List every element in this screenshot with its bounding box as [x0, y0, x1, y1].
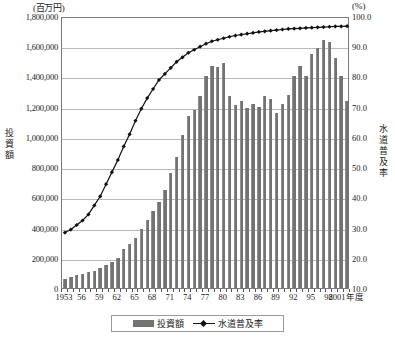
legend-item-supply-rate: 水道普及率 — [193, 317, 263, 330]
left-tick-label: 200,000 — [2, 255, 58, 264]
right-tick-label: 60.0 — [352, 134, 386, 143]
left-axis-tick-labels: 0200,000400,000600,000800,0001,000,0001,… — [0, 17, 58, 289]
chart-root: (百万円) (%) 投資額 水道普及率 0200,000400,000600,0… — [0, 0, 395, 338]
line-marker — [339, 24, 343, 28]
line-marker — [222, 36, 226, 40]
right-tick-label: 80.0 — [352, 73, 386, 82]
right-tick-label: 90.0 — [352, 43, 386, 52]
legend-label-investment: 投資額 — [157, 317, 184, 330]
line-marker — [269, 29, 273, 33]
line-marker — [210, 39, 214, 43]
x-tick — [231, 289, 232, 292]
x-tick — [320, 289, 321, 292]
legend-label-supply-rate: 水道普及率 — [218, 317, 263, 330]
x-tick — [267, 289, 268, 292]
line-marker — [316, 25, 320, 29]
line-marker — [198, 45, 202, 49]
line-marker — [321, 25, 325, 29]
left-tick-label: 400,000 — [2, 225, 58, 234]
line-marker — [257, 30, 261, 34]
x-tick — [90, 289, 91, 292]
line-marker — [216, 38, 220, 42]
x-tick — [284, 289, 285, 292]
line-marker — [122, 144, 126, 148]
x-tick — [143, 289, 144, 292]
x-tick — [73, 289, 74, 292]
x-tick — [214, 289, 215, 292]
line-marker — [280, 27, 284, 31]
x-tick — [126, 289, 127, 292]
x-tick — [302, 289, 303, 292]
left-tick-label: 1,200,000 — [2, 104, 58, 113]
line-marker — [239, 33, 243, 37]
line-marker — [310, 26, 314, 30]
right-tick-label: 20.0 — [352, 255, 386, 264]
right-tick-label: 70.0 — [352, 104, 386, 113]
line-marker — [192, 48, 196, 52]
left-tick-label: 1,800,000 — [2, 13, 58, 22]
x-tick — [108, 289, 109, 292]
right-tick-label: 50.0 — [352, 164, 386, 173]
legend-item-investment: 投資額 — [133, 317, 184, 330]
line-marker — [298, 26, 302, 30]
line-marker — [116, 158, 120, 162]
line-marker — [245, 32, 249, 36]
line-marker — [104, 182, 108, 186]
line-marker — [110, 170, 114, 174]
line-marker — [286, 27, 290, 31]
right-axis-unit-label: (%) — [352, 1, 366, 11]
line-marker — [127, 132, 131, 136]
chart-legend: 投資額 水道普及率 — [111, 315, 284, 332]
line-marker — [333, 24, 337, 28]
line-marker — [345, 24, 349, 28]
line-marker — [274, 28, 278, 32]
line-marker-icon — [193, 320, 215, 327]
line-marker — [292, 26, 296, 30]
left-tick-label: 1,400,000 — [2, 73, 58, 82]
line-path — [65, 26, 347, 232]
right-tick-label: 30.0 — [352, 225, 386, 234]
left-tick-label: 1,000,000 — [2, 134, 58, 143]
line-marker — [263, 29, 267, 33]
line-marker — [233, 33, 237, 37]
right-tick-label: 100.0 — [352, 13, 386, 22]
line-marker — [327, 25, 331, 29]
x-tick — [249, 289, 250, 292]
right-axis-tick-labels: 10.020.030.040.050.060.070.080.090.0100.… — [352, 17, 388, 289]
line-marker — [227, 35, 231, 39]
x-tick — [179, 289, 180, 292]
x-tick — [161, 289, 162, 292]
x-axis-labels: 19535659626568717477808386899295982001年度 — [0, 293, 395, 305]
plot-area — [61, 17, 349, 289]
right-tick-label: 40.0 — [352, 194, 386, 203]
line-marker — [133, 119, 137, 123]
left-tick-label: 600,000 — [2, 194, 58, 203]
bar-swatch-icon — [133, 320, 154, 327]
x-tick — [196, 289, 197, 292]
line-marker — [63, 230, 67, 234]
x-tick-label: 2001年度 — [316, 293, 376, 302]
left-tick-label: 1,600,000 — [2, 43, 58, 52]
line-marker — [251, 31, 255, 35]
left-tick-label: 800,000 — [2, 164, 58, 173]
line-marker — [204, 42, 208, 46]
line-series — [62, 18, 350, 290]
line-marker — [304, 26, 308, 30]
